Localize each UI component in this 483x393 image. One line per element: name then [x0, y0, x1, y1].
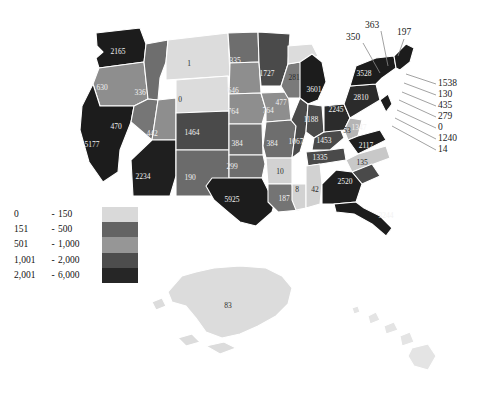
state-south-dakota — [229, 62, 261, 94]
state-oregon — [93, 62, 148, 106]
callout-value-label: 130 — [438, 89, 453, 99]
legend-color-swatch — [102, 237, 138, 252]
legend-color-swatch — [102, 207, 138, 222]
state-arkansas — [266, 158, 292, 184]
callout-value-label: 0 — [438, 122, 443, 132]
state-florida — [334, 202, 392, 236]
state-oklahoma — [229, 155, 265, 178]
map-legend: 0-150151-500501-1,0001,001-2,0002,001-6,… — [14, 207, 146, 283]
state-alaska — [152, 266, 292, 354]
callout-leader-line — [399, 100, 436, 117]
state-washington — [96, 28, 146, 68]
callout-value-label: 1538 — [438, 78, 457, 88]
state-mississippi — [292, 184, 306, 210]
legend-range-dash: - — [48, 222, 58, 237]
legend-row: 151-500 — [14, 222, 106, 237]
callout-leader-line — [406, 74, 436, 84]
state-missouri — [263, 120, 296, 158]
legend-range-dash: - — [48, 207, 58, 222]
callout-value-label: 279 — [438, 111, 453, 121]
legend-range-high: 500 — [58, 222, 98, 237]
state-new-jersey — [380, 94, 392, 112]
legend-range-dash: - — [48, 237, 58, 252]
legend-range-low: 0 — [14, 207, 48, 222]
legend-color-swatch — [102, 268, 138, 283]
legend-range-low: 151 — [14, 222, 48, 237]
callout-value-label: 1240 — [438, 133, 457, 143]
callout-leader-line — [404, 83, 436, 95]
legend-range-high: 6,000 — [58, 268, 98, 283]
legend-range-high: 1,000 — [58, 237, 98, 252]
state-montana — [166, 33, 230, 80]
choropleth-map-page: 2165630517733647044222341014641903356467… — [0, 0, 483, 393]
callout-leader-line — [397, 110, 436, 128]
callout-value-label: 350 — [346, 32, 361, 42]
callout-value-label: 197 — [397, 27, 412, 37]
state-wyoming — [176, 76, 229, 113]
state-texas — [206, 178, 276, 226]
legend-range-low: 501 — [14, 237, 48, 252]
legend-range-low: 1,001 — [14, 253, 48, 268]
legend-row: 2,001-6,000 — [14, 268, 106, 283]
state-idaho — [144, 40, 168, 100]
state-colorado — [176, 111, 229, 150]
legend-swatches — [102, 207, 138, 283]
state-kansas — [229, 124, 263, 155]
legend-color-swatch — [102, 222, 138, 237]
legend-rows: 0-150151-500501-1,0001,001-2,0002,001-6,… — [14, 207, 106, 283]
state-nebraska — [229, 93, 266, 124]
callout-value-label: 14 — [438, 144, 448, 154]
legend-range-dash: - — [48, 253, 58, 268]
state-indiana — [306, 104, 324, 138]
state-michigan — [300, 54, 326, 104]
us-map-graphic: 2165630517733647044222341014641903356467… — [0, 0, 483, 393]
legend-range-high: 150 — [58, 207, 98, 222]
state-alabama — [306, 164, 322, 208]
states-group — [80, 28, 436, 370]
state-arizona — [131, 140, 176, 196]
callout-value-label: 363 — [365, 20, 380, 30]
legend-row: 501-1,000 — [14, 237, 106, 252]
callout-leader-line — [395, 118, 436, 139]
callout-leader-line — [392, 126, 436, 150]
state-pennsylvania — [344, 84, 380, 118]
legend-range-high: 2,000 — [58, 253, 98, 268]
state-north-dakota — [228, 32, 259, 63]
callout-value-label: 435 — [438, 100, 453, 110]
state-tennessee — [306, 148, 346, 166]
legend-row: 1,001-2,000 — [14, 253, 106, 268]
state-new-england-states — [394, 44, 414, 70]
state-hawaii — [352, 306, 436, 370]
legend-range-low: 2,001 — [14, 268, 48, 283]
legend-row: 0-150 — [14, 207, 106, 222]
legend-range-dash: - — [48, 268, 58, 283]
legend-color-swatch — [102, 253, 138, 268]
